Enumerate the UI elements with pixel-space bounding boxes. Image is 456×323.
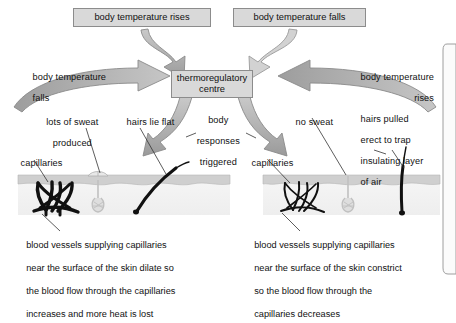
right-feedback-line2: rises [414,93,434,103]
right-sweat-label: no sweat [285,106,333,138]
right-sweat-text: no sweat [296,117,334,127]
right-caption-line4: capillaries decreases [254,309,340,319]
left-feedback-line1: body temperature [33,72,106,82]
left-caption-line2: near the surface of the skin dilate so [26,263,174,273]
centre-box-line1: thermoregulatory [177,73,247,85]
left-caption-line1: blood vessels supplying capillaries [26,240,166,250]
right-hair-line3: insulating layer [361,156,424,166]
left-caption-line3: the blood flow through the capillaries [26,286,175,296]
body-responses-triggered-label: body responses triggered [182,104,244,178]
left-capillaries-text: capillaries [21,158,63,168]
thermoregulatory-centre-box[interactable]: thermoregulatory centre [171,70,253,98]
leader-responses-right [246,133,256,138]
responses-line1: body [208,115,228,125]
right-hair-line1: hairs pulled [361,114,409,124]
left-hair-text: hairs lie flat [127,117,175,127]
right-capillaries-label: capillaries [241,147,293,179]
right-hair-line4: of air [361,177,382,187]
right-hair-label: hairs pulled erect to trap insulating la… [350,103,423,198]
right-caption-line3: so the blood flow through the [254,286,372,296]
responses-line2: responses [197,136,240,146]
centre-box-line2: centre [199,84,225,96]
stimulus-box-falls[interactable]: body temperature falls [233,8,366,27]
right-hair-line2: erect to trap [361,135,411,145]
sweat-droplet-left [88,172,108,177]
left-hair-label: hairs lie flat [116,106,174,138]
page-edge [443,44,456,274]
left-capillaries-label: capillaries [10,147,62,179]
stimulus-box-falls-label: body temperature falls [254,12,346,23]
left-sweat-line1: lots of sweat [46,117,98,127]
left-feedback-line2: falls [33,93,50,103]
stimulus-box-rises-label: body temperature rises [94,12,189,23]
right-feedback-line1: body temperature [361,72,434,82]
left-caption-line4: increases and more heat is lost [26,309,153,319]
right-caption-line2: near the surface of the skin constrict [254,263,402,273]
right-caption: blood vessels supplying capillaries near… [244,229,402,323]
right-caption-line1: blood vessels supplying capillaries [254,240,394,250]
responses-line3: triggered [200,157,237,167]
right-capillaries-text: capillaries [252,158,294,168]
left-caption: blood vessels supplying capillaries near… [16,229,175,323]
stimulus-box-rises[interactable]: body temperature rises [73,8,211,27]
